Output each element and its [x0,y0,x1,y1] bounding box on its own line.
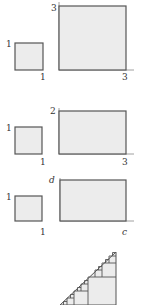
large-rect-3-bottom-label: c [122,227,127,237]
large-rect-2 [59,111,126,154]
small-square-2-bottom-label: 1 [40,157,46,167]
large-rect-2-side-label: 2 [50,106,56,116]
small-square-1 [15,43,43,70]
large-square-1-side-label: 3 [51,3,57,13]
small-square-3-bottom-label: 1 [40,227,46,237]
large-rect-3 [60,180,126,221]
nested-squares-triangle [60,252,116,305]
small-square-3 [15,196,42,221]
geometry-figure: 1 1 3 3 1 1 2 3 1 1 d c [0,0,143,305]
small-square-2-side-label: 1 [6,123,12,133]
row-3: 1 1 d c [6,175,134,237]
small-square-2 [15,127,42,154]
small-square-1-side-label: 1 [6,39,12,49]
row-2: 1 1 2 3 [6,106,134,167]
large-square-1-bottom-label: 3 [122,72,128,82]
large-rect-2-bottom-label: 3 [122,157,128,167]
small-square-3-side-label: 1 [6,192,12,202]
large-square-1 [59,6,126,70]
row-1: 1 1 3 3 [6,2,134,82]
small-square-1-bottom-label: 1 [40,72,46,82]
large-rect-3-side-label: d [49,175,55,185]
